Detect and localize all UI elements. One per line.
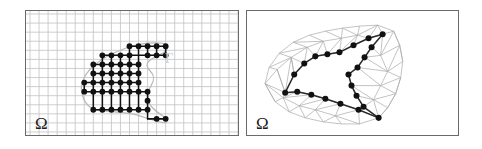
boundary-node xyxy=(282,90,288,96)
triangle-edge xyxy=(400,45,403,61)
triangle-edge xyxy=(388,71,401,77)
mesh-node xyxy=(136,71,142,77)
mesh-node xyxy=(108,89,114,95)
boundary-node xyxy=(369,44,375,50)
triangle-edge xyxy=(269,67,277,69)
triangle-edge xyxy=(275,98,283,102)
mesh-node xyxy=(99,89,105,95)
mesh-node xyxy=(154,43,160,49)
triangle-edge xyxy=(323,116,335,122)
mesh-node xyxy=(145,43,151,49)
mesh-node xyxy=(90,80,96,86)
mesh-node xyxy=(118,52,124,58)
boundary-node xyxy=(322,96,328,102)
triangle-edge xyxy=(358,25,378,35)
mesh-node xyxy=(90,89,96,95)
triangle-edge xyxy=(323,38,341,41)
mesh-node xyxy=(90,62,96,68)
boundary-node xyxy=(291,71,297,77)
domain-label-omega-right: Ω xyxy=(256,115,269,132)
mesh-node xyxy=(136,107,142,113)
triangle-edge xyxy=(341,28,342,38)
triangle-edge xyxy=(396,78,401,94)
mesh-node xyxy=(118,89,124,95)
mesh-node xyxy=(145,107,151,113)
mesh-node xyxy=(127,43,133,49)
boundary-nodes xyxy=(282,31,385,121)
triangle-edge xyxy=(358,26,360,35)
unstructured-mesh-canvas xyxy=(247,11,458,135)
mesh-node xyxy=(127,62,133,68)
mesh-node xyxy=(90,71,96,77)
mesh-node xyxy=(127,52,133,58)
structured-grid-canvas: Γ xyxy=(26,11,238,135)
triangle-edge xyxy=(309,35,323,41)
mesh-node xyxy=(108,71,114,77)
mesh-node xyxy=(145,52,151,58)
triangle-edge xyxy=(279,53,291,57)
mesh-node xyxy=(99,62,105,68)
boundary-node xyxy=(354,93,360,99)
triangle-edge xyxy=(315,104,340,110)
boundary-node xyxy=(376,115,382,121)
mesh-node xyxy=(136,43,142,49)
mesh-node xyxy=(99,52,105,58)
triangle-edge xyxy=(309,31,325,35)
mesh-node xyxy=(108,62,114,68)
triangle-edge xyxy=(277,69,285,92)
figure-container: Γ Ω Ω xyxy=(0,0,482,149)
triangular-mesh-edges xyxy=(265,25,403,124)
boundary-node xyxy=(362,54,368,60)
triangle-edge xyxy=(293,41,323,42)
boundary-node xyxy=(324,51,330,57)
boundary-node xyxy=(336,49,342,55)
triangle-edge xyxy=(265,84,275,102)
mesh-node xyxy=(90,107,96,113)
boundary-node xyxy=(337,101,343,107)
mesh-node xyxy=(163,43,169,49)
triangle-edge xyxy=(335,116,359,124)
mesh-node xyxy=(154,52,160,58)
mesh-node xyxy=(127,71,133,77)
structured-grid-panel: Γ Ω xyxy=(25,10,239,136)
triangle-edge xyxy=(378,25,394,31)
mesh-node xyxy=(81,89,87,95)
mesh-node xyxy=(99,71,105,77)
triangle-edge xyxy=(293,42,307,47)
domain-label-omega-left: Ω xyxy=(35,115,48,132)
boundary-node xyxy=(380,31,386,37)
boundary-node xyxy=(350,42,356,48)
triangle-edge xyxy=(360,25,378,26)
triangle-edge xyxy=(283,98,299,106)
boundary-node xyxy=(301,60,307,66)
mesh-node xyxy=(127,107,133,113)
mesh-node xyxy=(118,71,124,77)
mesh-node xyxy=(108,52,114,58)
triangle-edge xyxy=(323,122,341,124)
unstructured-mesh-panel: Ω xyxy=(246,10,459,136)
mesh-node xyxy=(136,80,142,86)
mesh-node xyxy=(118,107,124,113)
boundary-node xyxy=(361,104,367,110)
mesh-node xyxy=(99,80,105,86)
triangle-edge xyxy=(401,61,403,77)
triangle-edge xyxy=(335,110,358,116)
triangle-edge xyxy=(289,106,299,112)
mesh-node xyxy=(154,116,160,122)
triangle-edge xyxy=(342,28,357,35)
mesh-node xyxy=(136,89,142,95)
mesh-node xyxy=(136,62,142,68)
mesh-node xyxy=(127,89,133,95)
boundary-node xyxy=(355,64,361,70)
mesh-node xyxy=(145,98,151,104)
mesh-node xyxy=(108,107,114,113)
mesh-node xyxy=(81,80,87,86)
triangle-edge xyxy=(305,110,315,118)
triangle-edge xyxy=(293,35,309,42)
triangle-edge xyxy=(305,118,323,122)
mesh-node xyxy=(145,89,151,95)
triangle-edge xyxy=(381,78,401,86)
mesh-node xyxy=(118,62,124,68)
boundary-node xyxy=(312,53,318,59)
mesh-node xyxy=(118,80,124,86)
